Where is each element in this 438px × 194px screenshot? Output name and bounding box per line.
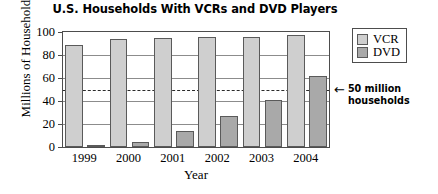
y-axis-tick-label: 80 [43,48,56,63]
annotation-line-1: 50 million [348,83,401,94]
legend-label-dvd: DVD [373,46,400,58]
legend-item-dvd: DVD [357,46,400,58]
y-axis-tick-label: 20 [43,117,56,132]
chart-figure: U.S. Households With VCRs and DVD Player… [0,0,438,194]
x-axis-tick-label: 2004 [293,151,318,166]
x-axis-tick-label: 2002 [205,151,230,166]
x-axis-tick-label: 2000 [116,151,141,166]
chart-title: U.S. Households With VCRs and DVD Player… [52,2,338,16]
legend: VCR DVD [352,28,407,63]
y-axis-tick-label: 100 [36,25,55,40]
bar-dvd-2003 [265,100,283,147]
bar-vcr-2003 [243,37,261,147]
x-axis-tick-label: 1999 [72,151,97,166]
y-axis-tick-label: 40 [43,94,56,109]
bar-dvd-2001 [176,131,194,147]
reference-line-annotation: ← 50 million households [334,83,438,106]
y-axis-tick-label: 60 [43,71,56,86]
bar-vcr-2000 [110,39,128,147]
y-axis-tick [58,124,63,125]
bar-vcr-1999 [65,45,83,147]
y-axis-tick-label: 0 [49,140,55,155]
bar-dvd-2000 [132,142,150,147]
y-axis-tick [58,78,63,79]
annotation-text: 50 million households [348,83,410,106]
legend-swatch-dvd-icon [357,47,368,58]
y-axis-tick [58,101,63,102]
plot-inner: 020406080100 [63,32,329,147]
bar-dvd-2002 [220,116,238,147]
annotation-line-2: households [348,95,410,106]
plot-area: 020406080100 [62,31,330,148]
bar-dvd-1999 [87,145,105,147]
bar-vcr-2001 [154,38,172,147]
bar-dvd-2004 [309,76,327,147]
legend-item-vcr: VCR [357,33,400,45]
bar-vcr-2002 [198,37,216,147]
bar-vcr-2004 [287,35,305,147]
left-arrow-icon: ← [334,84,345,95]
y-axis-title: Millions of Households [18,0,34,126]
legend-label-vcr: VCR [373,33,399,45]
y-axis-tick [58,147,63,148]
y-axis-tick [58,55,63,56]
x-axis-title: Year [62,167,330,183]
x-axis-tick-label: 2001 [160,151,185,166]
x-axis-tick-label: 2003 [249,151,274,166]
y-axis-tick [58,32,63,33]
legend-swatch-vcr-icon [357,34,368,45]
